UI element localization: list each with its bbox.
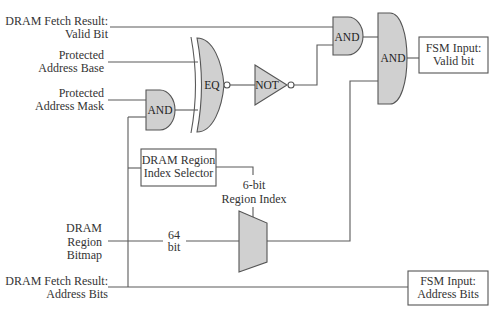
input-address-mask-label: Protected Address Mask xyxy=(35,86,104,113)
output-valid-bit-line1: FSM Input: xyxy=(426,41,482,55)
input-valid-bit-line1: DRAM Fetch Result: xyxy=(5,14,108,28)
not-gate: NOT xyxy=(255,65,294,105)
input-address-base-line1: Protected xyxy=(59,48,104,62)
region-selector-line2: Index Selector xyxy=(144,166,214,180)
input-address-mask-line2: Address Mask xyxy=(35,99,104,113)
region-index-line2: Region Index xyxy=(222,192,287,206)
bitmap-width-label: 64 bit xyxy=(168,228,181,254)
input-address-bits-line1: DRAM Fetch Result: xyxy=(5,274,108,288)
wire-mux-to-final-and xyxy=(267,81,378,241)
input-address-bits-line2: Address Bits xyxy=(46,287,108,301)
eq-inversion-bubble-icon xyxy=(224,82,230,88)
logic-diagram: DRAM Fetch Result: Valid Bit Protected A… xyxy=(0,0,499,313)
input-region-bitmap-line3: Bitmap xyxy=(67,248,102,262)
region-selector-line1: DRAM Region xyxy=(142,153,216,167)
region-index-line1: 6-bit xyxy=(243,178,266,192)
input-address-bits-label: DRAM Fetch Result: Address Bits xyxy=(5,274,108,301)
not-inversion-bubble-icon xyxy=(288,82,294,88)
not-gate-label: NOT xyxy=(255,79,279,91)
final-and-gate-label: AND xyxy=(381,52,406,64)
mask-and-gate-label: AND xyxy=(148,104,173,116)
wire-not-to-and xyxy=(294,45,333,85)
region-index-selector-block: DRAM Region Index Selector xyxy=(141,149,216,186)
output-valid-bit-box: FSM Input: Valid bit xyxy=(419,37,488,73)
input-region-bitmap-label: DRAM Region Bitmap xyxy=(66,221,102,262)
bitmap-width-line2: bit xyxy=(168,240,181,254)
mask-and-gate: AND xyxy=(146,90,175,130)
eq-gate-back-curve xyxy=(191,37,196,133)
input-valid-bit-label: DRAM Fetch Result: Valid Bit xyxy=(5,14,108,41)
eq-gate: EQ xyxy=(191,37,230,133)
wire-selector-out xyxy=(216,167,253,175)
input-region-bitmap-line2: Region xyxy=(67,235,102,249)
valid-and-gate-label: AND xyxy=(335,31,360,43)
eq-gate-label: EQ xyxy=(204,79,220,91)
region-index-label: 6-bit Region Index xyxy=(222,178,287,206)
input-valid-bit-line2: Valid Bit xyxy=(65,27,109,41)
input-region-bitmap-line1: DRAM xyxy=(66,221,102,235)
region-mux xyxy=(239,211,267,272)
output-address-bits-line1: FSM Input: xyxy=(420,274,476,288)
final-and-gate: AND xyxy=(378,13,407,104)
output-address-bits-line2: Address Bits xyxy=(417,287,479,301)
valid-and-gate: AND xyxy=(333,17,363,55)
input-address-mask-line1: Protected xyxy=(59,86,104,100)
input-address-base-label: Protected Address Base xyxy=(38,48,104,75)
input-address-base-line2: Address Base xyxy=(38,61,104,75)
output-address-bits-box: FSM Input: Address Bits xyxy=(408,271,488,305)
output-valid-bit-line2: Valid bit xyxy=(433,54,475,68)
